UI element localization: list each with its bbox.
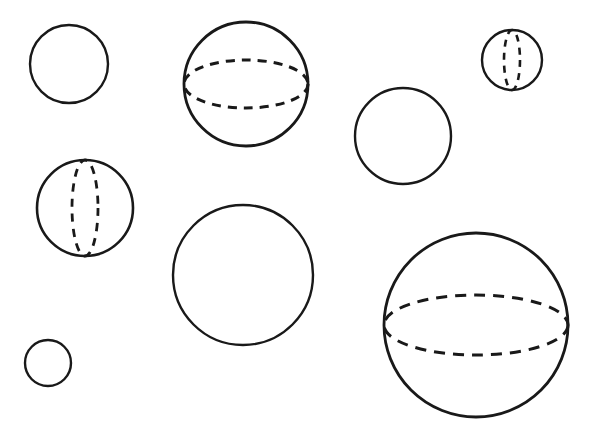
shapes-drawing: Plain circle, upper leftSphere with hori…	[0, 0, 594, 433]
figure-canvas: Plain circle, upper leftSphere with hori…	[0, 0, 594, 433]
canvas-background	[0, 0, 594, 433]
